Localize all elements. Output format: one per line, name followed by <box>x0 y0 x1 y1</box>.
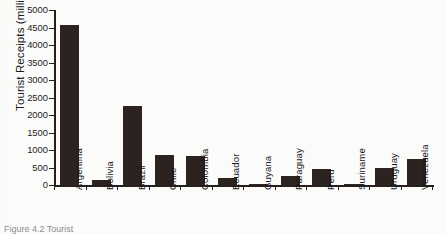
x-tick-mark <box>369 185 370 190</box>
y-tick-label: 4500 <box>27 22 48 33</box>
x-label-venezuela: Venezuela <box>420 144 430 190</box>
x-label-chile: Chile <box>168 168 178 190</box>
y-axis-title: Tourist Receipts (million $US) <box>14 0 26 124</box>
y-tick-mark <box>49 10 54 11</box>
x-label-suriname: Suriname <box>357 148 367 190</box>
x-label-peru: Peru <box>326 169 336 190</box>
x-tick-mark <box>180 185 181 190</box>
x-tick-mark <box>275 185 276 190</box>
x-tick-mark <box>86 185 87 190</box>
y-tick-label: 1500 <box>27 127 48 138</box>
y-tick-mark <box>49 63 54 64</box>
y-tick-label: 2000 <box>27 109 48 120</box>
y-tick-mark <box>49 150 54 151</box>
y-tick-mark <box>49 115 54 116</box>
x-label-guyana: Guyana <box>263 156 273 190</box>
y-tick-mark <box>49 28 54 29</box>
y-tick-mark <box>49 80 54 81</box>
y-tick-label: 0 <box>43 179 48 190</box>
figure-container: Tourist Receipts (million $US) 050010001… <box>0 0 445 234</box>
x-label-argentina: Argentina <box>74 148 84 190</box>
x-tick-mark <box>401 185 402 190</box>
x-tick-mark <box>149 185 150 190</box>
x-label-colombia: Colombia <box>200 149 210 190</box>
x-tick-mark <box>306 185 307 190</box>
y-tick-mark <box>49 98 54 99</box>
x-label-uruguay: Uruguay <box>389 153 399 190</box>
x-tick-mark <box>212 185 213 190</box>
x-tick-mark <box>338 185 339 190</box>
x-label-ecuador: Ecuador <box>231 154 241 190</box>
y-tick-label: 500 <box>32 162 48 173</box>
y-tick-label: 3000 <box>27 74 48 85</box>
plot-area: 0500100015002000250030003500400045005000 <box>54 10 432 185</box>
x-tick-mark <box>54 185 55 190</box>
x-label-brazil: Brazil <box>137 165 147 190</box>
y-tick-label: 1000 <box>27 144 48 155</box>
figure-caption: Figure 4.2 Tourist <box>4 224 304 234</box>
x-tick-mark <box>243 185 244 190</box>
y-tick-mark <box>49 168 54 169</box>
x-tick-mark <box>117 185 118 190</box>
y-tick-mark <box>49 133 54 134</box>
y-tick-label: 3500 <box>27 57 48 68</box>
y-tick-label: 2500 <box>27 92 48 103</box>
x-label-paraguay: Paraguay <box>294 148 304 190</box>
y-tick-label: 5000 <box>27 4 48 15</box>
y-tick-mark <box>49 45 54 46</box>
y-tick-label: 4000 <box>27 39 48 50</box>
x-label-bolivia: Bolivia <box>105 161 115 190</box>
x-tick-mark <box>432 185 433 190</box>
